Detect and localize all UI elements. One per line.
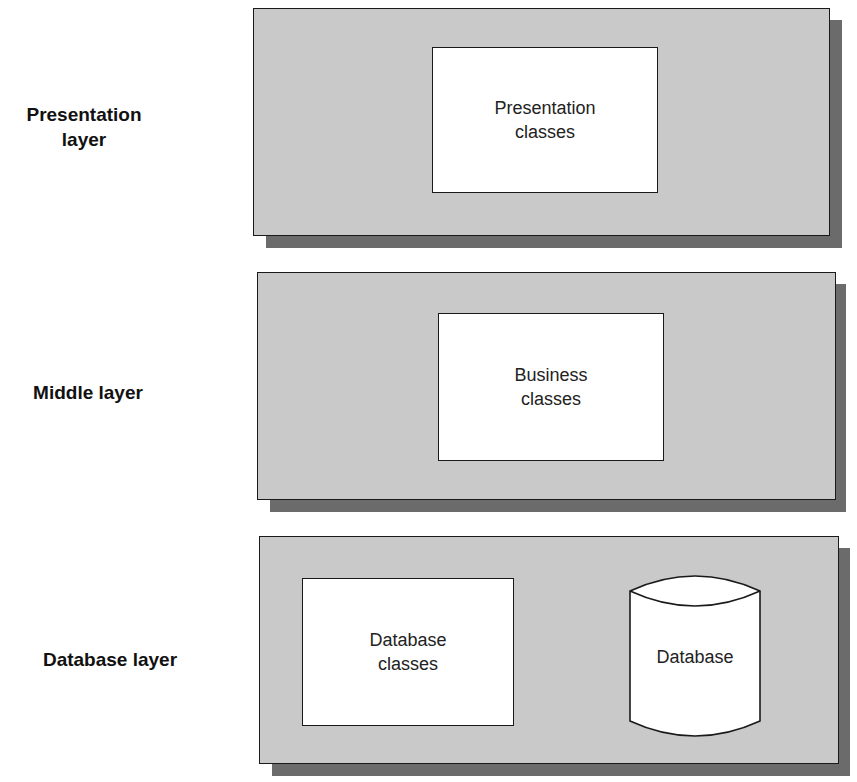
box-text: Database [369, 628, 446, 652]
box-text: classes [514, 387, 587, 411]
presentation-classes-box: Presentation classes [432, 47, 658, 193]
box-text: classes [494, 120, 595, 144]
label-line: Database layer [0, 647, 220, 672]
presentation-layer-label: Presentation layer [0, 102, 168, 152]
database-layer-label: Database layer [0, 647, 220, 672]
box-text: Business [514, 363, 587, 387]
label-line: Presentation [0, 102, 168, 127]
cylinder-text: Database [628, 647, 762, 668]
label-line: layer [0, 127, 168, 152]
database-cylinder: Database [628, 573, 762, 743]
middle-layer-panel: Business classes [257, 272, 836, 500]
database-layer-panel: Database classes Database [259, 536, 839, 764]
presentation-layer-panel: Presentation classes [253, 8, 830, 236]
box-text: classes [369, 652, 446, 676]
business-classes-box: Business classes [438, 313, 664, 461]
middle-layer-label: Middle layer [0, 380, 176, 405]
database-classes-box: Database classes [302, 578, 514, 726]
label-line: Middle layer [0, 380, 176, 405]
box-text: Presentation [494, 96, 595, 120]
